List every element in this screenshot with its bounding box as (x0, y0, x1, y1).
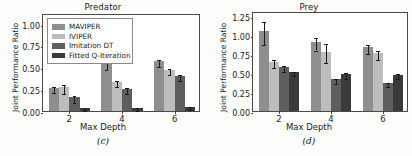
error-bar-cap (178, 81, 182, 82)
error-bar (326, 44, 327, 63)
chart-legend: MAVIPERIVIPERImitation DTFitted Q-Iterat… (47, 18, 133, 64)
bar (164, 70, 174, 111)
error-bar-cap (282, 66, 286, 67)
figure-container: Predator Joint Performance Ratio 0.000.2… (0, 0, 412, 156)
error-bar-cap (83, 109, 87, 110)
bar (154, 61, 164, 111)
plot-area-prey: 0.000.250.500.751.001.25246 (253, 13, 407, 111)
error-bar-cap (136, 111, 140, 112)
error-bar-cap (376, 51, 380, 52)
error-bar-cap (62, 94, 66, 95)
legend-item: Imitation DT (52, 41, 128, 51)
y-tick-mark (251, 18, 254, 19)
error-bar-cap (105, 70, 109, 71)
bar (373, 53, 383, 111)
error-bar-cap (125, 88, 129, 89)
error-bar-cap (314, 51, 318, 52)
legend-label: IVIPER (69, 32, 92, 42)
error-bar-cap (292, 72, 296, 73)
bar (363, 47, 373, 111)
error-bar-cap (376, 60, 380, 61)
error-bar-cap (188, 110, 192, 111)
error-bar-cap (366, 45, 370, 46)
bar (311, 42, 321, 111)
panel-caption: (c) (0, 136, 206, 146)
error-bar-cap (168, 75, 172, 76)
y-tick-mark (41, 47, 44, 48)
y-tick-mark (251, 113, 254, 114)
y-tick-mark (41, 26, 44, 27)
error-bar-cap (396, 79, 400, 80)
error-bar-cap (73, 96, 77, 97)
bar (101, 64, 111, 111)
error-bar (159, 60, 160, 67)
x-tick-mark (331, 111, 332, 114)
error-bar-cap (386, 87, 390, 88)
error-bar-cap (168, 69, 172, 70)
error-bar-cap (324, 63, 328, 64)
panel-caption: (d) (206, 136, 412, 146)
x-axis-label: Max Depth (0, 122, 206, 132)
chart-panel-prey: Prey Joint Performance Ratio 0.000.250.5… (206, 0, 412, 156)
error-bar-cap (125, 94, 129, 95)
bar (269, 62, 279, 111)
y-tick-mark (41, 113, 44, 114)
error-bar-cap (136, 108, 140, 109)
error-bar-cap (115, 87, 119, 88)
legend-swatch (52, 24, 65, 30)
error-bar-cap (262, 22, 266, 23)
legend-item: MAVIPER (52, 22, 128, 32)
error-bar-cap (157, 67, 161, 68)
legend-swatch (52, 34, 65, 40)
error-bar-cap (73, 103, 77, 104)
error-bar (378, 51, 379, 59)
legend-swatch (52, 53, 65, 59)
error-bar (64, 85, 65, 95)
x-tick-mark (383, 111, 384, 114)
error-bar (264, 22, 265, 45)
y-tick-mark (41, 91, 44, 92)
panel-title: Prey (206, 2, 412, 12)
error-bar-cap (334, 84, 338, 85)
error-bar-cap (282, 72, 286, 73)
plot-axes: 0.000.250.500.751.001.25246 (252, 12, 408, 112)
error-bar-cap (157, 60, 161, 61)
x-tick-mark (279, 111, 280, 114)
chart-panel-predator: Predator Joint Performance Ratio 0.000.2… (0, 0, 206, 156)
y-tick-mark (251, 56, 254, 57)
x-tick-mark (122, 111, 123, 114)
legend-item: IVIPER (52, 32, 128, 42)
error-bar-cap (292, 76, 296, 77)
error-bar-cap (344, 73, 348, 74)
legend-label: MAVIPER (69, 22, 101, 32)
legend-item: Fitted Q-Iteration (52, 51, 128, 61)
x-tick-mark (175, 111, 176, 114)
error-bar-cap (52, 87, 56, 88)
error-bar-cap (386, 83, 390, 84)
error-bar (274, 60, 275, 68)
error-bar-cap (272, 68, 276, 69)
error-bar-cap (366, 54, 370, 55)
plot-axes: 0.000.250.500.751.00246 MAVIPERIVIPERImi… (42, 14, 200, 112)
error-bar-cap (52, 93, 56, 94)
error-bar-cap (262, 45, 266, 46)
bar (289, 72, 299, 111)
y-tick-mark (251, 94, 254, 95)
legend-label: Imitation DT (69, 41, 113, 51)
error-bar (74, 96, 75, 103)
error-bar-cap (83, 111, 87, 112)
error-bar-cap (188, 107, 192, 108)
y-tick-mark (251, 37, 254, 38)
x-tick-mark (69, 111, 70, 114)
legend-label: Fitted Q-Iteration (69, 51, 130, 61)
panel-title: Predator (0, 2, 206, 12)
error-bar-cap (272, 60, 276, 61)
x-axis-label: Max Depth (206, 122, 412, 132)
bar (279, 67, 289, 111)
error-bar-cap (344, 79, 348, 80)
error-bar-cap (396, 74, 400, 75)
y-axis-label: Joint Performance Ratio (219, 23, 228, 112)
y-tick-mark (41, 69, 44, 70)
y-tick-mark (251, 75, 254, 76)
error-bar (368, 45, 369, 54)
